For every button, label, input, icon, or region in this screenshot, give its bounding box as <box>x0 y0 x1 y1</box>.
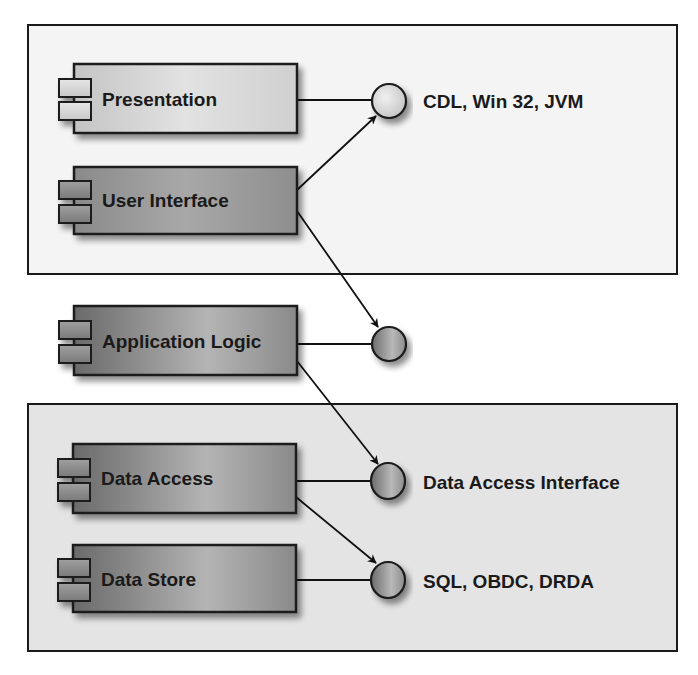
component-icon <box>58 483 90 501</box>
interface-label: CDL, Win 32, JVM <box>423 91 583 112</box>
interface-app-logic-circle[interactable] <box>372 327 406 361</box>
component-icon <box>59 205 91 223</box>
component-icon <box>58 459 90 477</box>
interface-cdl-circle[interactable] <box>372 84 406 118</box>
package-top <box>28 25 677 274</box>
interface-label: SQL, OBDC, DRDA <box>423 571 594 592</box>
component-diagram: Presentation User Interface Application … <box>0 0 698 675</box>
component-icon <box>59 181 91 199</box>
component-label: Presentation <box>102 89 217 110</box>
component-icon <box>58 559 90 577</box>
interface-sql-circle[interactable] <box>371 562 405 598</box>
interface-label: Data Access Interface <box>423 472 620 493</box>
component-label: Application Logic <box>102 331 262 352</box>
component-icon <box>59 102 91 120</box>
component-label: Data Access <box>101 468 213 489</box>
component-icon <box>59 321 91 339</box>
interface-data-access-circle[interactable] <box>371 463 405 499</box>
component-icon <box>59 79 91 97</box>
component-label: User Interface <box>102 190 229 211</box>
component-label: Data Store <box>101 569 196 590</box>
component-icon <box>58 583 90 601</box>
component-icon <box>59 345 91 363</box>
package-bottom <box>28 404 677 651</box>
